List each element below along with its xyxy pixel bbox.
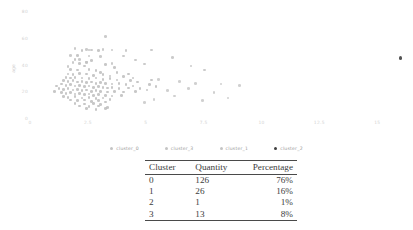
scatter-point bbox=[76, 69, 79, 72]
scatter-point bbox=[97, 99, 100, 102]
scatter-point bbox=[136, 81, 139, 84]
column-header-cluster: Cluster bbox=[145, 161, 191, 175]
scatter-point bbox=[78, 92, 81, 95]
scatter-point bbox=[62, 95, 65, 98]
scatter-point bbox=[113, 66, 116, 69]
scatter-point bbox=[148, 83, 151, 86]
scatter-point bbox=[88, 93, 91, 96]
x-tick-label: 2.5 bbox=[84, 120, 92, 125]
scatter-point bbox=[104, 101, 107, 104]
scatter-point bbox=[111, 62, 114, 65]
scatter-point bbox=[99, 55, 102, 58]
x-axis-ticks: 02.557.51012.515 bbox=[30, 120, 405, 128]
scatter-point bbox=[134, 59, 137, 62]
scatter-point bbox=[203, 69, 206, 72]
scatter-point bbox=[122, 91, 125, 94]
scatter-point bbox=[83, 93, 86, 96]
x-tick-label: 7.5 bbox=[200, 120, 208, 125]
scatter-point bbox=[90, 81, 93, 84]
scatter-point bbox=[104, 63, 107, 66]
scatter-point bbox=[178, 80, 181, 83]
scatter-point bbox=[88, 105, 91, 108]
table-row: 12616% bbox=[145, 186, 297, 197]
scatter-point bbox=[83, 99, 86, 102]
scatter-point bbox=[69, 91, 72, 94]
legend-item[interactable]: cluster_3 bbox=[165, 146, 194, 151]
y-axis-ticks: 806040200 bbox=[8, 6, 28, 118]
scatter-point bbox=[187, 87, 190, 90]
column-header-percentage: Percentage bbox=[242, 161, 297, 175]
scatter-point bbox=[155, 85, 158, 88]
scatter-point bbox=[143, 101, 146, 104]
scatter-point bbox=[76, 54, 79, 57]
scatter-point bbox=[58, 87, 61, 90]
scatter-point bbox=[102, 97, 105, 100]
scatter-point bbox=[127, 73, 130, 76]
scatter-point bbox=[97, 49, 100, 52]
legend-item[interactable]: cluster_2 bbox=[274, 146, 303, 151]
scatter-point bbox=[99, 103, 102, 106]
scatter-point bbox=[85, 107, 88, 110]
scatter-point bbox=[83, 65, 86, 68]
table-body: 012676%12616%211%3138% bbox=[145, 174, 297, 221]
scatter-point bbox=[220, 83, 223, 86]
scatter-point bbox=[74, 102, 77, 105]
scatter-point bbox=[62, 79, 65, 82]
scatter-point bbox=[97, 93, 100, 96]
scatter-point bbox=[88, 68, 91, 71]
cell-cluster: 2 bbox=[145, 197, 191, 208]
scatter-point bbox=[74, 47, 77, 50]
scatter-point bbox=[85, 48, 88, 51]
scatter-point bbox=[92, 86, 95, 89]
cluster-summary-table: Cluster Quantity Percentage 012676%12616… bbox=[145, 160, 297, 221]
scatter-point bbox=[67, 80, 70, 83]
scatter-point bbox=[78, 105, 81, 108]
scatter-point bbox=[74, 85, 77, 88]
cell-percentage: 8% bbox=[242, 208, 297, 221]
scatter-point bbox=[65, 76, 68, 79]
scatter-point bbox=[92, 102, 95, 105]
table-row: 012676% bbox=[145, 174, 297, 186]
legend-label: cluster_0 bbox=[116, 146, 139, 151]
scatter-point bbox=[90, 90, 93, 93]
scatter-point bbox=[173, 95, 176, 98]
scatter-point bbox=[201, 99, 204, 102]
scatter-point bbox=[118, 87, 121, 90]
table-row: 211% bbox=[145, 197, 297, 208]
scatter-point bbox=[69, 68, 72, 71]
scatter-point bbox=[67, 87, 70, 90]
table-row: 3138% bbox=[145, 208, 297, 221]
scatter-point bbox=[111, 95, 114, 98]
scatter-point bbox=[69, 83, 72, 86]
scatter-point bbox=[72, 89, 75, 92]
scatter-point bbox=[104, 35, 107, 38]
y-tick-label: 40 bbox=[22, 62, 28, 67]
scatter-point bbox=[150, 49, 153, 52]
scatter-point bbox=[88, 96, 91, 99]
scatter-point bbox=[53, 90, 56, 93]
cell-quantity: 1 bbox=[191, 197, 242, 208]
scatter-point bbox=[116, 71, 119, 74]
scatter-point bbox=[153, 98, 156, 101]
scatter-point bbox=[95, 69, 98, 72]
scatter-point bbox=[227, 97, 230, 100]
legend-item[interactable]: cluster_0 bbox=[110, 146, 139, 151]
scatter-point bbox=[194, 82, 197, 85]
scatter-point bbox=[95, 77, 98, 80]
scatter-point bbox=[102, 73, 105, 76]
column-header-quantity: Quantity bbox=[191, 161, 242, 175]
scatter-point bbox=[106, 87, 109, 90]
scatter-point bbox=[78, 72, 81, 75]
scatter-point bbox=[127, 87, 130, 90]
cell-quantity: 13 bbox=[191, 208, 242, 221]
scatter-point bbox=[78, 58, 81, 61]
scatter-point bbox=[125, 83, 128, 86]
scatter-point bbox=[150, 79, 153, 82]
scatter-point bbox=[132, 77, 135, 80]
legend-item[interactable]: cluster_1 bbox=[220, 146, 249, 151]
scatter-point bbox=[143, 63, 146, 66]
y-axis-label: age bbox=[11, 64, 16, 73]
screenshot-root: 806040200 age 02.557.51012.515 cluster_0… bbox=[0, 0, 413, 230]
x-tick-label: 12.5 bbox=[314, 120, 325, 125]
scatter-point bbox=[95, 82, 98, 85]
